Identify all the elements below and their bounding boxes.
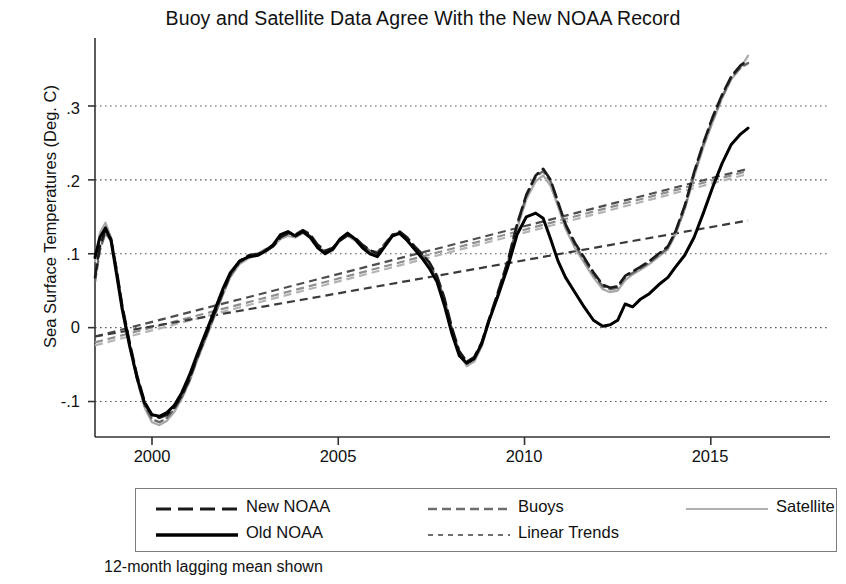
legend-label-buoys: Buoys [518,497,564,516]
chart-figure: Buoy and Satellite Data Agree With the N… [0,0,846,584]
legend-label-old-noaa: Old NOAA [246,523,323,542]
legend-swatch-new-noaa [154,498,240,520]
legend-label-linear-trends: Linear Trends [518,523,619,542]
chart-legend: New NOAA Old NOAA Buoys Linear Trends Sa… [135,488,837,552]
legend-swatch-old-noaa [154,524,240,546]
chart-caption: 12-month lagging mean shown [104,558,323,576]
legend-swatch-satellite [684,498,770,520]
legend-swatch-buoys [426,498,512,520]
trend-line-3 [95,221,748,337]
legend-label-satellite: Satellite [776,497,835,516]
legend-swatch-linear-trends [426,524,512,546]
legend-label-new-noaa: New NOAA [246,497,330,516]
